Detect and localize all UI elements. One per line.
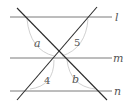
angle-label-b: b [72, 73, 79, 86]
arc-angle-4 [30, 60, 54, 89]
transversal-1 [17, 8, 107, 100]
angle-label-4: 4 [44, 75, 50, 86]
label-n: n [114, 85, 121, 98]
angle-label-a: a [34, 37, 41, 50]
label-m: m [113, 52, 123, 65]
label-l: l [115, 11, 119, 24]
angle-label-5: 5 [74, 37, 80, 48]
parallel-lines-diagram: l m n a 5 4 b [0, 0, 130, 106]
